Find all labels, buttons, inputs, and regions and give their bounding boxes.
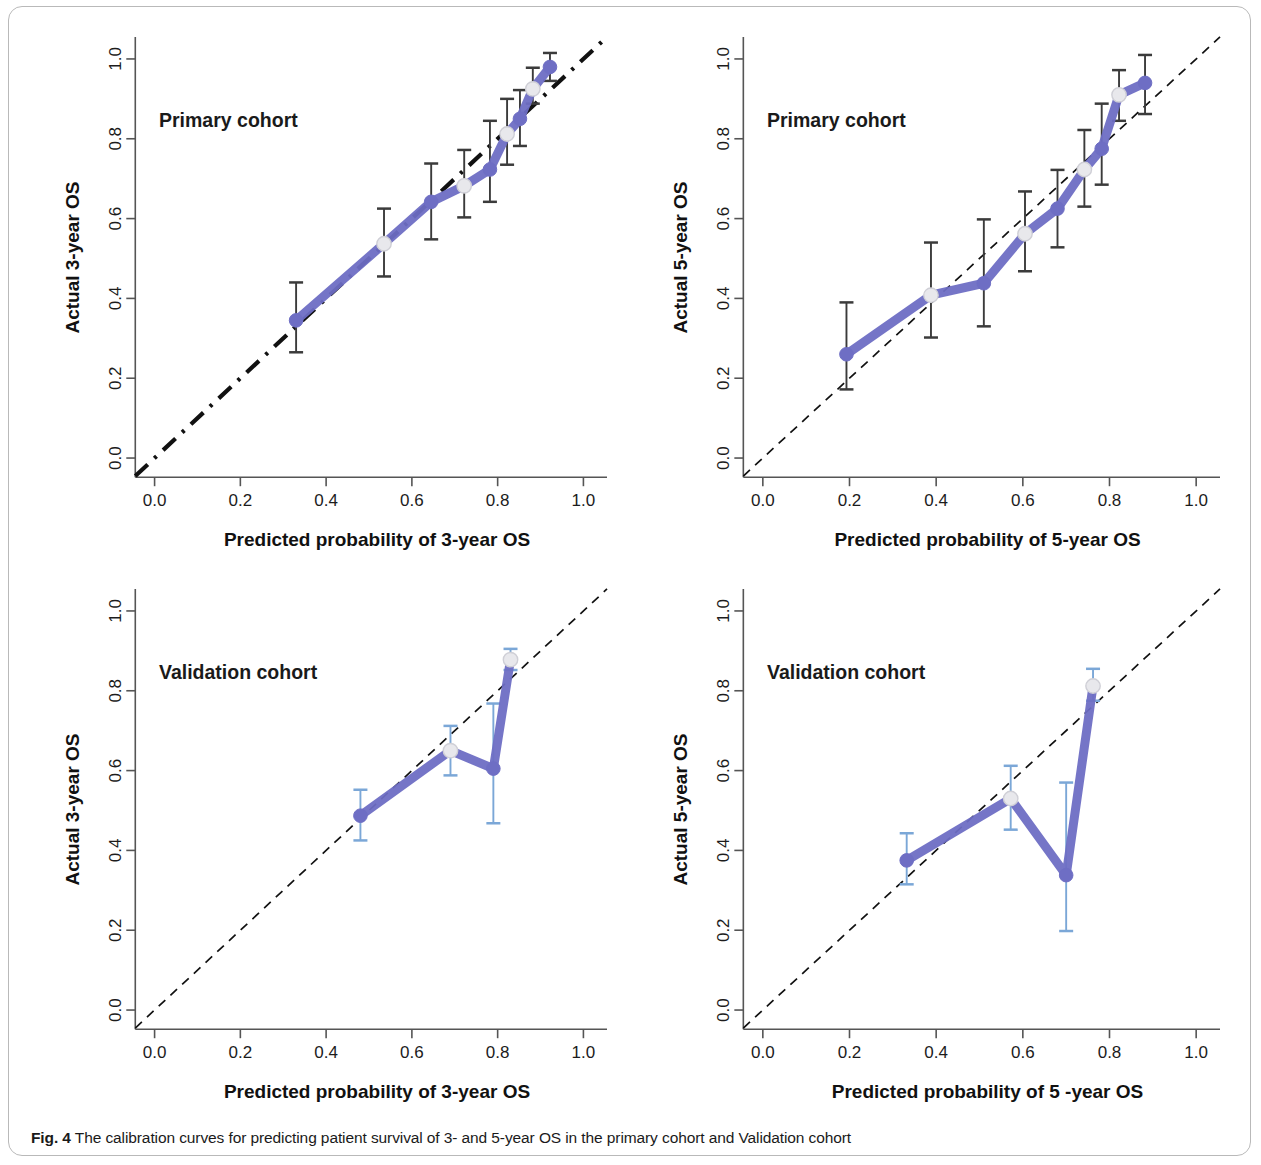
- data-point-open-marker: [377, 237, 391, 251]
- data-point-filled-marker: [354, 809, 368, 823]
- data-point-filled-marker: [1095, 142, 1109, 156]
- data-point-filled-marker: [424, 195, 438, 209]
- x-tick-label: 0.6: [1011, 1043, 1035, 1062]
- y-tick-label: 0.4: [106, 287, 125, 311]
- y-axis-title: Actual 3-year OS: [62, 181, 83, 333]
- x-tick-label: 0.6: [400, 1043, 424, 1062]
- x-tick-label: 0.6: [400, 491, 424, 510]
- x-tick-label: 1.0: [1184, 1043, 1208, 1062]
- data-point-open-marker: [443, 743, 457, 757]
- x-tick-label: 0.6: [1011, 491, 1035, 510]
- data-point-open-marker: [1077, 162, 1091, 176]
- data-point-open-marker: [1086, 679, 1100, 693]
- x-axis-title: Predicted probability of 5 -year OS: [832, 1081, 1143, 1102]
- x-tick-label: 0.8: [486, 1043, 510, 1062]
- y-tick-label: 0.8: [106, 127, 125, 151]
- calibration-panel-validation-5yr: 0.00.20.40.60.81.00.00.20.40.60.81.0Pred…: [627, 563, 1242, 1118]
- chart-primary-3yr: 0.00.20.40.60.81.00.00.20.40.60.81.0Pred…: [19, 11, 629, 566]
- y-tick-label: 0.0: [106, 998, 125, 1022]
- calibration-panel-validation-3yr: 0.00.20.40.60.81.00.00.20.40.60.81.0Pred…: [19, 563, 629, 1118]
- data-point-filled-marker: [289, 314, 303, 328]
- x-axis-title: Predicted probability of 3-year OS: [224, 529, 530, 550]
- data-point-filled-marker: [1059, 868, 1073, 882]
- data-point-open-marker: [1112, 88, 1126, 102]
- x-tick-label: 0.4: [924, 491, 948, 510]
- calibration-curve: [360, 660, 510, 816]
- x-tick-label: 0.0: [143, 1043, 167, 1062]
- y-tick-label: 1.0: [714, 599, 733, 623]
- y-tick-label: 0.6: [714, 207, 733, 231]
- data-point-filled-marker: [840, 347, 854, 361]
- y-tick-label: 0.4: [714, 839, 733, 863]
- data-point-filled-marker: [1051, 202, 1065, 216]
- y-tick-label: 0.0: [714, 446, 733, 470]
- x-tick-label: 0.2: [229, 491, 253, 510]
- x-tick-label: 0.8: [1098, 1043, 1122, 1062]
- y-tick-label: 0.0: [106, 446, 125, 470]
- data-point-open-marker: [1004, 791, 1018, 805]
- data-point-open-marker: [924, 288, 938, 302]
- x-tick-label: 0.2: [838, 491, 862, 510]
- cohort-label: Validation cohort: [159, 661, 318, 683]
- reference-diagonal-line: [743, 37, 1220, 476]
- x-axis-title: Predicted probability of 5-year OS: [834, 529, 1140, 550]
- cohort-label: Validation cohort: [767, 661, 926, 683]
- data-point-filled-marker: [900, 854, 914, 868]
- y-tick-label: 0.2: [106, 366, 125, 390]
- figure-caption-text: The calibration curves for predicting pa…: [71, 1129, 851, 1146]
- calibration-panel-primary-3yr: 0.00.20.40.60.81.00.00.20.40.60.81.0Pred…: [19, 11, 629, 566]
- y-tick-label: 0.8: [714, 127, 733, 151]
- y-tick-label: 0.8: [714, 679, 733, 703]
- y-tick-label: 0.4: [714, 287, 733, 311]
- calibration-curve: [296, 67, 550, 320]
- figure-caption: Fig. 4 The calibration curves for predic…: [31, 1129, 1221, 1147]
- x-tick-label: 0.8: [486, 491, 510, 510]
- data-point-open-marker: [503, 652, 517, 666]
- y-axis-title: Actual 3-year OS: [62, 733, 83, 885]
- x-tick-label: 0.4: [314, 1043, 338, 1062]
- y-tick-label: 1.0: [714, 47, 733, 71]
- chart-primary-5yr: 0.00.20.40.60.81.00.00.20.40.60.81.0Pred…: [627, 11, 1242, 566]
- data-point-filled-marker: [513, 112, 527, 126]
- x-tick-label: 0.4: [314, 491, 338, 510]
- data-point-filled-marker: [977, 276, 991, 290]
- x-tick-label: 0.0: [143, 491, 167, 510]
- x-tick-label: 1.0: [572, 1043, 596, 1062]
- y-tick-label: 0.2: [714, 366, 733, 390]
- y-axis-title: Actual 5-year OS: [670, 181, 691, 333]
- cohort-label: Primary cohort: [159, 109, 298, 131]
- y-tick-label: 0.2: [714, 918, 733, 942]
- y-tick-label: 0.4: [106, 839, 125, 863]
- y-tick-label: 1.0: [106, 599, 125, 623]
- calibration-panel-primary-5yr: 0.00.20.40.60.81.00.00.20.40.60.81.0Pred…: [627, 11, 1242, 566]
- data-point-open-marker: [457, 179, 471, 193]
- y-tick-label: 0.8: [106, 679, 125, 703]
- x-tick-label: 1.0: [1184, 491, 1208, 510]
- x-tick-label: 0.4: [924, 1043, 948, 1062]
- y-axis-title: Actual 5-year OS: [670, 733, 691, 885]
- x-tick-label: 0.8: [1098, 491, 1122, 510]
- data-point-filled-marker: [483, 163, 497, 177]
- y-tick-label: 0.6: [106, 207, 125, 231]
- calibration-curve: [907, 686, 1093, 875]
- y-tick-label: 0.6: [106, 759, 125, 783]
- data-point-open-marker: [500, 127, 514, 141]
- chart-validation-3yr: 0.00.20.40.60.81.00.00.20.40.60.81.0Pred…: [19, 563, 629, 1118]
- x-axis-title: Predicted probability of 3-year OS: [224, 1081, 530, 1102]
- figure-caption-label: Fig. 4: [31, 1129, 71, 1146]
- x-tick-label: 1.0: [572, 491, 596, 510]
- y-tick-label: 0.2: [106, 918, 125, 942]
- cohort-label: Primary cohort: [767, 109, 906, 131]
- reference-diagonal-line: [743, 589, 1220, 1028]
- x-tick-label: 0.2: [229, 1043, 253, 1062]
- x-tick-label: 0.2: [838, 1043, 862, 1062]
- figure-frame: 0.00.20.40.60.81.00.00.20.40.60.81.0Pred…: [8, 6, 1251, 1156]
- x-tick-label: 0.0: [751, 1043, 775, 1062]
- data-point-filled-marker: [543, 60, 557, 74]
- y-tick-label: 0.6: [714, 759, 733, 783]
- data-point-filled-marker: [487, 762, 501, 776]
- data-point-open-marker: [1018, 227, 1032, 241]
- y-tick-label: 0.0: [714, 998, 733, 1022]
- data-point-filled-marker: [1138, 76, 1152, 90]
- data-point-open-marker: [526, 82, 540, 96]
